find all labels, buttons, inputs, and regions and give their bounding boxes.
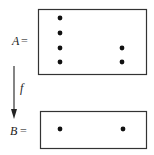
set-element-dot	[121, 127, 126, 132]
arrow-label-f: f	[20, 81, 25, 95]
set-mapping-diagram: A = f B =	[0, 0, 154, 155]
set-b-points	[58, 127, 126, 132]
set-a-box	[39, 10, 147, 75]
set-element-dot	[58, 31, 63, 36]
set-b-box	[41, 112, 147, 149]
set-element-dot	[58, 16, 63, 21]
set-element-dot	[58, 60, 63, 65]
mapping-arrow-f: f	[11, 66, 25, 119]
set-b-equals: =	[20, 124, 27, 138]
set-a-points	[58, 16, 125, 65]
set-element-dot	[120, 60, 125, 65]
set-element-dot	[58, 127, 63, 132]
set-a-equals: =	[21, 34, 28, 48]
set-b-label: B	[10, 124, 18, 138]
set-b: B =	[10, 112, 147, 149]
set-element-dot	[58, 46, 63, 51]
set-a-label: A	[11, 34, 20, 48]
set-a: A =	[11, 10, 147, 75]
arrow-head-icon	[11, 109, 17, 119]
set-element-dot	[120, 46, 125, 51]
